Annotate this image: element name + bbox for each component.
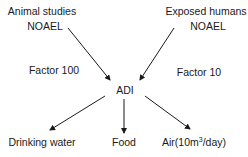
factor-100-label: Factor 100 <box>29 64 79 76</box>
arrow-adi-to-water <box>50 96 105 130</box>
air-label-prefix: Air(10m <box>162 136 199 148</box>
air-label: Air(10m3/day) <box>162 136 226 148</box>
arrow-adi-to-air <box>145 96 190 129</box>
animal-studies-label: Animal studies <box>8 5 76 17</box>
human-noael-label: NOAEL <box>190 20 226 32</box>
drinking-water-label: Drinking water <box>8 136 75 148</box>
air-label-suffix: /day) <box>203 136 226 148</box>
adi-label: ADI <box>116 84 134 96</box>
animal-noael-label: NOAEL <box>27 20 63 32</box>
exposed-humans-label: Exposed humans <box>165 5 246 17</box>
factor-10-label: Factor 10 <box>177 66 221 78</box>
arrow-human-to-adi <box>140 28 174 80</box>
food-label: Food <box>112 136 136 148</box>
